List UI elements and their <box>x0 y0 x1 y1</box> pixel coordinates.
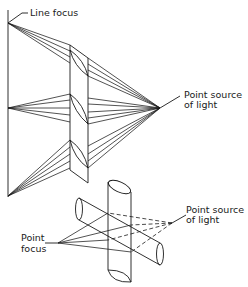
optics-diagram: Line focus Point source of light <box>0 0 248 287</box>
converging-rays-top <box>8 23 70 196</box>
converging-rays-bottom <box>58 213 131 252</box>
horizontal-cylinder-lens <box>76 198 164 265</box>
cylindrical-lens-top <box>70 45 88 183</box>
line-focus-leader <box>8 13 28 23</box>
line-focus-diagram: Line focus Point source of light <box>8 7 242 197</box>
source-leader-bottom <box>172 215 186 223</box>
point-focus-label-1: Point <box>21 232 45 243</box>
line-focus-label: Line focus <box>30 7 78 18</box>
point-source-top <box>88 58 160 168</box>
point-focus-diagram: Point focus Point source of light <box>21 178 244 283</box>
point-source-label-top-2: of light <box>184 99 218 110</box>
point-focus-label-2: focus <box>21 243 46 254</box>
point-source-label-bottom-2: of light <box>186 214 220 225</box>
source-leader-top <box>160 96 180 108</box>
